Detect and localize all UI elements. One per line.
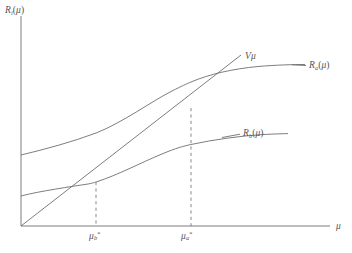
curve-r-a — [21, 65, 305, 156]
figure-canvas: Ri(μ) Ra(μ) Rb(μ) Vμ μ μb* μa* — [0, 0, 352, 253]
tick-label-mu-star-b: μb* — [89, 231, 100, 241]
y-axis-label-paren-close: ) — [21, 5, 24, 15]
curve-label-r-a-paren-close: ) — [326, 60, 329, 70]
x-axis-label: μ — [336, 222, 341, 232]
tick-label-mu-star-a-sup: * — [189, 230, 192, 237]
curve-label-r-a: Ra(μ) — [309, 61, 330, 71]
tick-label-mu-star-a: μa* — [181, 231, 192, 241]
ray-v-mu-curve — [21, 55, 241, 226]
y-axis-label: Ri(μ) — [5, 6, 24, 16]
diagram-svg — [0, 0, 352, 253]
ray-label-v-mu: Vμ — [245, 52, 256, 62]
curve-label-r-b-paren-close: ) — [260, 128, 263, 138]
ray-label-v-mu-arg: μ — [251, 51, 256, 61]
curve-r-b — [21, 134, 288, 196]
tick-label-mu-star-b-sup: * — [97, 230, 100, 237]
curve-label-r-b: Rb(μ) — [243, 129, 264, 139]
